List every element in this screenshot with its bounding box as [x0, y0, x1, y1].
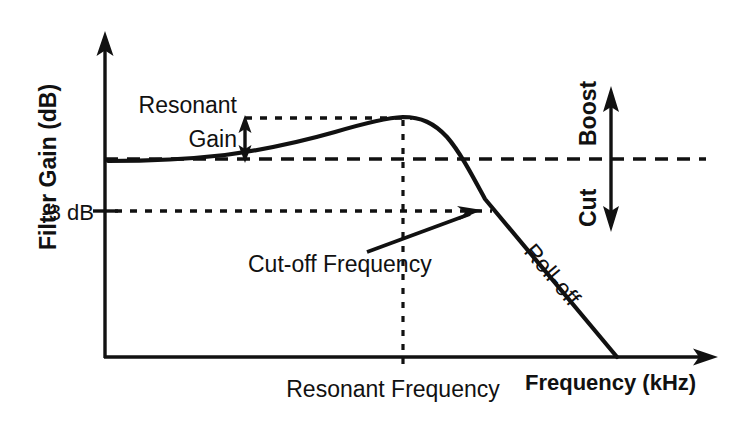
boost-label: Boost [575, 81, 601, 147]
y-axis-label: Filter Gain (dB) [35, 84, 61, 250]
x-axis-label: Frequency (kHz) [525, 370, 696, 395]
minus-3db-label: -3 dB [41, 200, 94, 225]
cut-label: Cut [575, 188, 601, 227]
resonant-gain-label-line2: Gain [188, 126, 237, 152]
x-axis [104, 349, 718, 366]
cutoff-frequency-label: Cut-off Frequency [248, 251, 432, 277]
cutoff-frequency-pointer [367, 206, 482, 252]
filter-gain-curve [108, 117, 617, 357]
resonant-gain-arrow [239, 115, 252, 163]
filter-response-figure: Filter Gain (dB) Frequency (kHz) -3 dB R… [0, 0, 752, 424]
y-axis [97, 31, 114, 358]
filter-response-chart: Filter Gain (dB) Frequency (kHz) -3 dB R… [0, 0, 752, 424]
resonant-gain-label-line1: Resonant [139, 92, 238, 118]
resonant-frequency-label: Resonant Frequency [286, 376, 500, 402]
rolloff-label: Roll-off [519, 239, 586, 312]
